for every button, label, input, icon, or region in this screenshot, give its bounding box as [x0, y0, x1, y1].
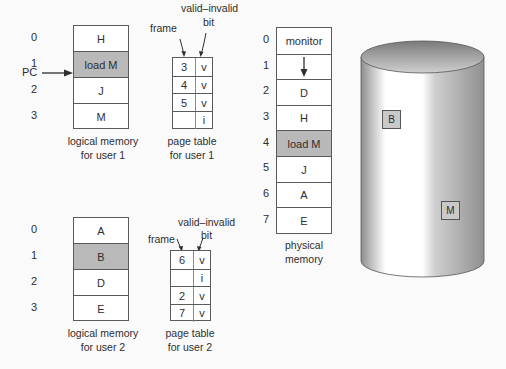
page-index-0: 0 [27, 31, 41, 43]
logical-memory-user1: H load M J M [73, 25, 129, 129]
frame-cell-highlighted: load M [277, 130, 331, 156]
logical-page-cell: J [74, 77, 128, 103]
frame-number: 2 [171, 287, 194, 304]
logical-page-cell-highlighted: B [74, 243, 128, 269]
page-index-1: 1 [27, 249, 41, 261]
page-table-row: 6 v [171, 251, 210, 269]
physical-memory-caption: physical memory [264, 238, 344, 266]
page-table-row: 7 v [171, 304, 210, 322]
pc-label: PC [22, 66, 37, 78]
valid-bit: v [196, 58, 212, 76]
frame-number: 7 [171, 305, 194, 322]
caption-line: for user 2 [58, 340, 148, 354]
disk-cylinder-icon [356, 36, 490, 282]
caption-line: memory [264, 252, 344, 266]
valid-bit: v [194, 251, 210, 269]
caption-line: page table [150, 326, 230, 340]
logical-memory-user1-caption: logical memory for user 1 [58, 134, 148, 162]
page-table-user2: 6 v i 2 v 7 v [170, 250, 211, 321]
frame-index-2: 2 [259, 84, 273, 96]
frame-index-3: 3 [259, 110, 273, 122]
frame-index-6: 6 [259, 187, 273, 199]
logical-memory-user2: A B D E [73, 217, 129, 321]
page-index-3: 3 [27, 109, 41, 121]
page-table-row: i [171, 269, 210, 287]
frame-cell: J [277, 156, 331, 182]
frame-index-5: 5 [259, 161, 273, 173]
frame-cell: H [277, 105, 331, 131]
frame-label: frame [150, 22, 177, 34]
valid-bit: i [194, 270, 210, 287]
pointer-arrows-icon [175, 30, 215, 58]
caption-line: for user 2 [150, 340, 230, 354]
valid-bit: v [194, 287, 210, 304]
frame-cell [277, 54, 331, 80]
page-table-user2-caption: page table for user 2 [150, 326, 230, 354]
logical-page-cell: H [74, 26, 128, 52]
caption-line: for user 1 [152, 148, 232, 162]
logical-page-cell: M [74, 103, 128, 129]
caption-line: physical [264, 238, 344, 252]
valid-invalid-label: valid–invalid [178, 216, 235, 228]
frame-number: 6 [171, 251, 194, 269]
logical-memory-user2-caption: logical memory for user 2 [58, 326, 148, 354]
physical-memory: monitor D H load M J A E [276, 27, 332, 234]
page-table-row: 3 v [173, 58, 212, 76]
down-arrow-icon [299, 56, 309, 78]
page-table-row: 5 v [173, 93, 212, 111]
caption-line: for user 1 [58, 148, 148, 162]
frame-number: 4 [173, 77, 196, 94]
caption-line: logical memory [58, 134, 148, 148]
page-index-3: 3 [27, 301, 41, 313]
frame-cell-monitor: monitor [277, 28, 331, 54]
frame-cell: A [277, 182, 331, 208]
disk-page-b: B [382, 110, 401, 129]
logical-page-cell: A [74, 218, 128, 244]
frame-label: frame [148, 233, 175, 245]
page-table-row: i [173, 111, 212, 129]
valid-invalid-label: valid–invalid [181, 2, 238, 14]
disk-page-m: M [441, 201, 460, 220]
caption-line: page table [152, 134, 232, 148]
page-index-2: 2 [27, 83, 41, 95]
valid-bit: v [194, 305, 210, 322]
frame-index-0: 0 [259, 33, 273, 45]
caption-line: logical memory [58, 326, 148, 340]
frame-cell: D [277, 79, 331, 105]
frame-number [171, 270, 194, 287]
logical-page-cell: E [74, 295, 128, 321]
valid-bit: v [196, 94, 212, 111]
page-table-row: 4 v [173, 76, 212, 94]
frame-index-1: 1 [259, 59, 273, 71]
frame-number [173, 112, 196, 129]
logical-page-cell-highlighted: load M [74, 51, 128, 77]
valid-bit: v [196, 77, 212, 94]
frame-index-7: 7 [259, 213, 273, 225]
logical-page-cell: D [74, 269, 128, 295]
pc-arrow-icon [40, 67, 74, 79]
page-table-user1-caption: page table for user 1 [152, 134, 232, 162]
frame-number: 3 [173, 58, 196, 76]
frame-number: 5 [173, 94, 196, 111]
frame-index-4: 4 [259, 136, 273, 148]
page-table-row: 2 v [171, 286, 210, 304]
valid-bit: i [196, 112, 212, 129]
bit-label: bit [203, 16, 214, 28]
frame-cell: E [277, 207, 331, 233]
page-index-0: 0 [27, 223, 41, 235]
page-index-2: 2 [27, 275, 41, 287]
page-table-user1: 3 v 4 v 5 v i [172, 57, 213, 129]
